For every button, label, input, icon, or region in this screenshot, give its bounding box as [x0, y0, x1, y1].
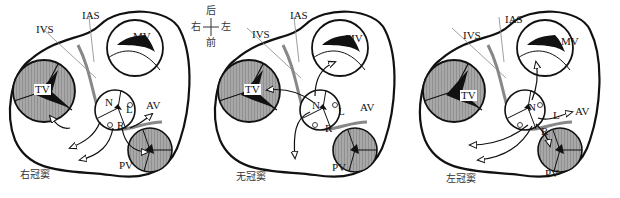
- compass-right: 右: [191, 22, 201, 32]
- label-ias: IAS: [505, 14, 523, 25]
- label-av: AV: [360, 102, 374, 113]
- label-ivs: IVS: [463, 30, 481, 41]
- label-ias: IAS: [290, 10, 308, 21]
- label-tv: TV: [34, 84, 51, 95]
- caption-left-coronary-sinus: 左冠窦: [446, 174, 476, 184]
- label-l: L: [126, 104, 133, 115]
- label-n: N: [528, 102, 536, 113]
- label-tv: TV: [244, 84, 261, 95]
- label-l: L: [338, 106, 345, 117]
- label-pv: PV: [332, 162, 346, 173]
- label-l: L: [553, 110, 560, 121]
- label-ivs: IVS: [36, 24, 54, 35]
- caption-noncoronary-sinus: 无冠窦: [236, 172, 266, 182]
- orientation-compass: [203, 18, 219, 36]
- compass-anterior: 前: [206, 38, 216, 48]
- label-mv: MV: [133, 31, 151, 42]
- label-r: R: [325, 123, 332, 134]
- diagram-stage: .t { position:absolute; font-family:"Lib…: [0, 0, 620, 198]
- compass-posterior: 后: [206, 6, 216, 16]
- label-pv: PV: [545, 168, 559, 179]
- label-tv: TV: [460, 90, 477, 101]
- panel-noncoronary-sinus: [215, 12, 394, 177]
- compass-left: 左: [221, 22, 231, 32]
- label-av: AV: [575, 106, 589, 117]
- label-av: AV: [146, 100, 160, 111]
- label-n: N: [105, 97, 113, 108]
- label-n: N: [312, 100, 320, 111]
- label-ivs: IVS: [252, 29, 270, 40]
- caption-right-coronary-sinus: 右冠窦: [20, 170, 50, 180]
- label-r: R: [541, 126, 548, 137]
- label-mv: MV: [345, 33, 363, 44]
- label-r: R: [117, 120, 124, 131]
- label-mv: MV: [561, 36, 579, 47]
- label-ias: IAS: [82, 10, 100, 21]
- label-pv: PV: [119, 160, 133, 171]
